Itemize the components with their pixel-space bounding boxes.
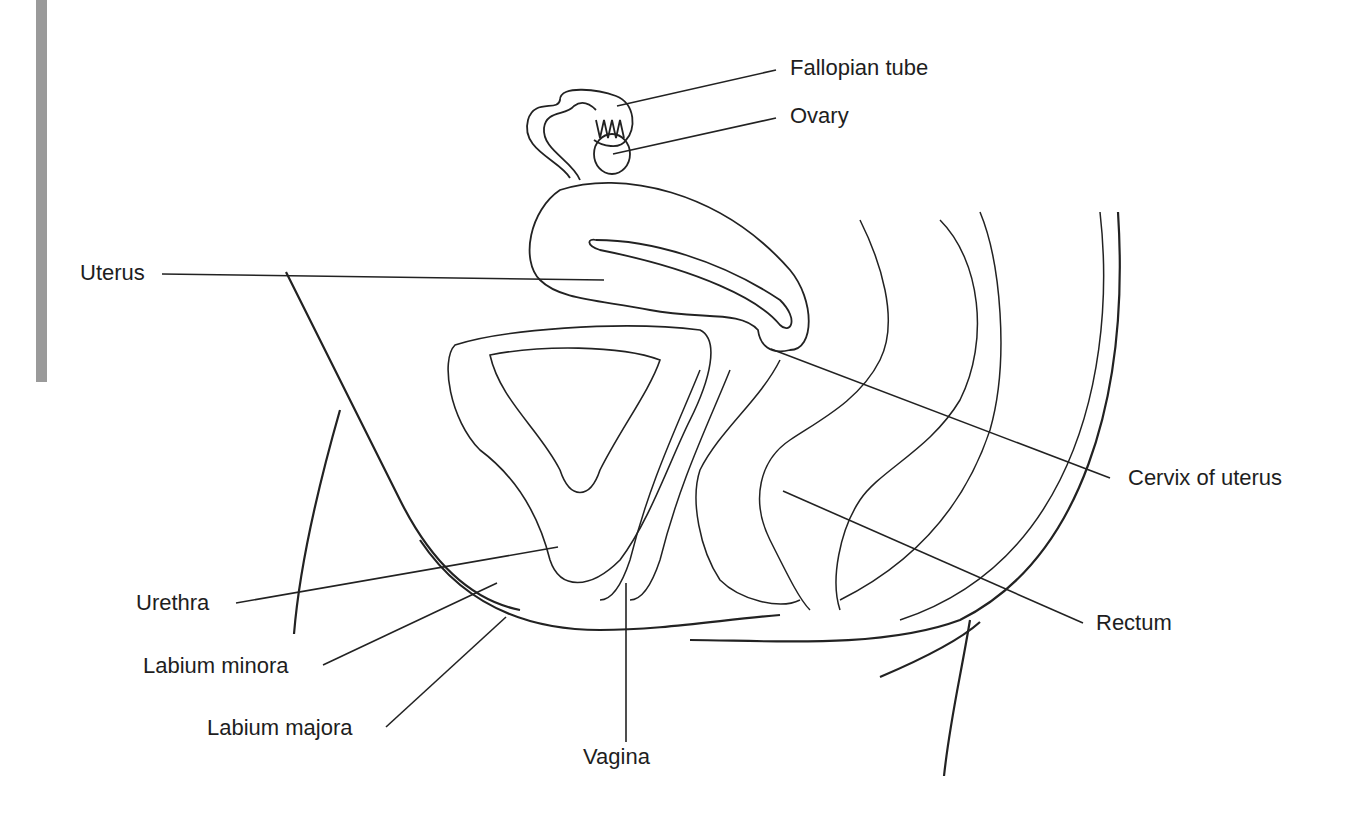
fallopian-tube-ovary <box>527 90 633 180</box>
sacrum-outline <box>840 212 1104 620</box>
label-labium-majora: Labium majora <box>207 717 353 739</box>
uterus-outline <box>530 183 809 352</box>
label-vagina: Vagina <box>583 746 650 768</box>
label-rectum: Rectum <box>1096 612 1172 634</box>
bladder-outline <box>448 326 711 583</box>
label-ovary: Ovary <box>790 105 849 127</box>
label-fallopian-tube: Fallopian tube <box>790 57 928 79</box>
label-urethra: Urethra <box>136 592 209 614</box>
label-cervix: Cervix of uterus <box>1128 467 1282 489</box>
label-labium-minora: Labium minora <box>143 655 289 677</box>
label-uterus: Uterus <box>80 262 145 284</box>
anatomy-illustration <box>0 0 1368 815</box>
body-outline <box>286 212 1120 776</box>
